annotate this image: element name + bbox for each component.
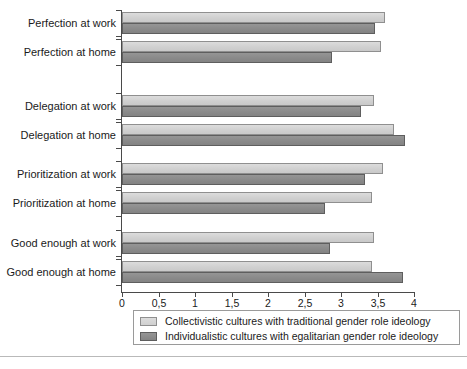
category-label: Good enough at work [11, 237, 116, 249]
bar-collectivistic [122, 124, 394, 135]
legend-label-collectivistic: Collectivistic cultures with traditional… [165, 315, 431, 327]
y-axis-tick [116, 65, 122, 66]
category-label: Perfection at home [24, 46, 116, 58]
legend-label-individualistic: Individualistic cultures with egalitaria… [165, 330, 438, 342]
x-axis-tick-label: 3 [321, 297, 361, 309]
bar-individualistic [122, 272, 403, 283]
category-label: Prioritization at home [13, 197, 116, 209]
x-axis-tick-label: 2 [248, 297, 288, 309]
y-axis-tick [116, 122, 122, 123]
y-axis-tick [116, 36, 122, 37]
bar-collectivistic [122, 41, 381, 52]
bar-individualistic [122, 23, 375, 34]
category-label: Delegation at home [21, 129, 116, 141]
bar-individualistic [122, 174, 365, 185]
chart-legend: Collectivistic cultures with traditional… [133, 310, 460, 345]
bar-collectivistic [122, 12, 385, 23]
legend-swatch-individualistic-icon [140, 332, 157, 341]
bar-collectivistic [122, 261, 372, 272]
bar-individualistic [122, 203, 325, 214]
y-axis-tick [116, 93, 122, 94]
legend-swatch-collectivistic-icon [140, 317, 157, 326]
y-axis-tick [116, 39, 122, 40]
y-axis-tick [116, 187, 122, 188]
x-axis-tick-label: 0,5 [139, 297, 179, 309]
y-axis-tick [116, 190, 122, 191]
y-axis-tick [116, 285, 122, 286]
legend-item: Collectivistic cultures with traditional… [140, 314, 459, 328]
bar-collectivistic [122, 163, 383, 174]
y-axis-tick [116, 216, 122, 217]
bottom-divider [0, 356, 467, 357]
bar-collectivistic [122, 95, 374, 106]
y-axis-tick [116, 161, 122, 162]
category-label: Perfection at work [28, 17, 116, 29]
x-axis-tick-label: 3,5 [358, 297, 398, 309]
bar-individualistic [122, 106, 361, 117]
category-label: Prioritization at work [17, 168, 116, 180]
bar-individualistic [122, 135, 405, 146]
category-label: Delegation at work [25, 100, 116, 112]
y-axis-tick [116, 256, 122, 257]
x-axis-tick-label: 1,5 [212, 297, 252, 309]
y-axis-tick [116, 230, 122, 231]
bar-individualistic [122, 243, 330, 254]
x-axis-tick-label: 1 [175, 297, 215, 309]
category-label: Good enough at home [7, 266, 116, 278]
x-axis-tick-label: 4 [394, 297, 434, 309]
y-axis-tick [116, 10, 122, 11]
y-axis-tick [116, 119, 122, 120]
bar-individualistic [122, 52, 332, 63]
legend-item: Individualistic cultures with egalitaria… [140, 329, 459, 343]
bar-chart-figure: Perfection at workPerfection at homeDele… [0, 0, 467, 369]
y-axis-tick [116, 148, 122, 149]
bar-collectivistic [122, 192, 372, 203]
x-axis-tick-label: 2,5 [285, 297, 325, 309]
x-axis-tick-label: 0 [102, 297, 142, 309]
y-axis-tick [116, 259, 122, 260]
bar-collectivistic [122, 232, 374, 243]
